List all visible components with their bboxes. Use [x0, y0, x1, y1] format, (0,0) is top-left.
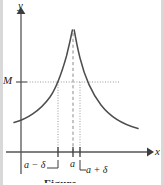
tick-label-a: a — [70, 159, 75, 169]
figure-caption-partial: Figure — [44, 178, 120, 183]
tick-label-a-minus-delta: a − δ — [24, 160, 45, 170]
x-axis-label: x — [155, 146, 160, 157]
curve-right-branch — [74, 30, 138, 129]
y-axis-label: y — [18, 0, 23, 11]
left-edge-artifact — [0, 0, 3, 185]
tick-label-a-plus-delta: a + δ — [86, 165, 107, 175]
left-label-connector — [47, 160, 58, 168]
figure-container: y x M a − δ a a + δ Figure — [0, 0, 164, 185]
curve-left-branch — [14, 30, 72, 123]
m-level-label: M — [3, 75, 12, 86]
x-axis-arrowhead — [147, 148, 154, 157]
graph-canvas — [0, 0, 164, 185]
right-edge-artifact — [161, 0, 164, 185]
